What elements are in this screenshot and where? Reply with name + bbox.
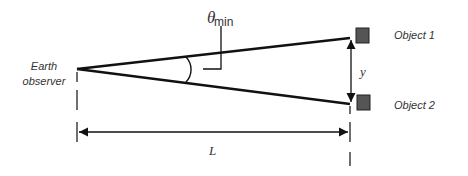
object1-label: Object 1 bbox=[394, 29, 435, 41]
distance-label: L bbox=[208, 143, 216, 158]
angle-arc bbox=[186, 57, 191, 82]
observer-label-line2: observer bbox=[23, 75, 67, 87]
object2-square bbox=[357, 95, 370, 110]
theta-subscript: min bbox=[214, 15, 233, 29]
separation-label: y bbox=[358, 64, 366, 79]
sight-line-object2 bbox=[77, 69, 350, 104]
observer-label-line1: Earth bbox=[31, 60, 57, 72]
sight-line-object1 bbox=[77, 38, 350, 69]
theta-pointer bbox=[203, 26, 221, 69]
object1-square bbox=[356, 28, 369, 43]
diagram-canvas: Earth observer θ min Object 1 Object 2 y… bbox=[0, 0, 468, 176]
object2-label: Object 2 bbox=[394, 99, 435, 111]
